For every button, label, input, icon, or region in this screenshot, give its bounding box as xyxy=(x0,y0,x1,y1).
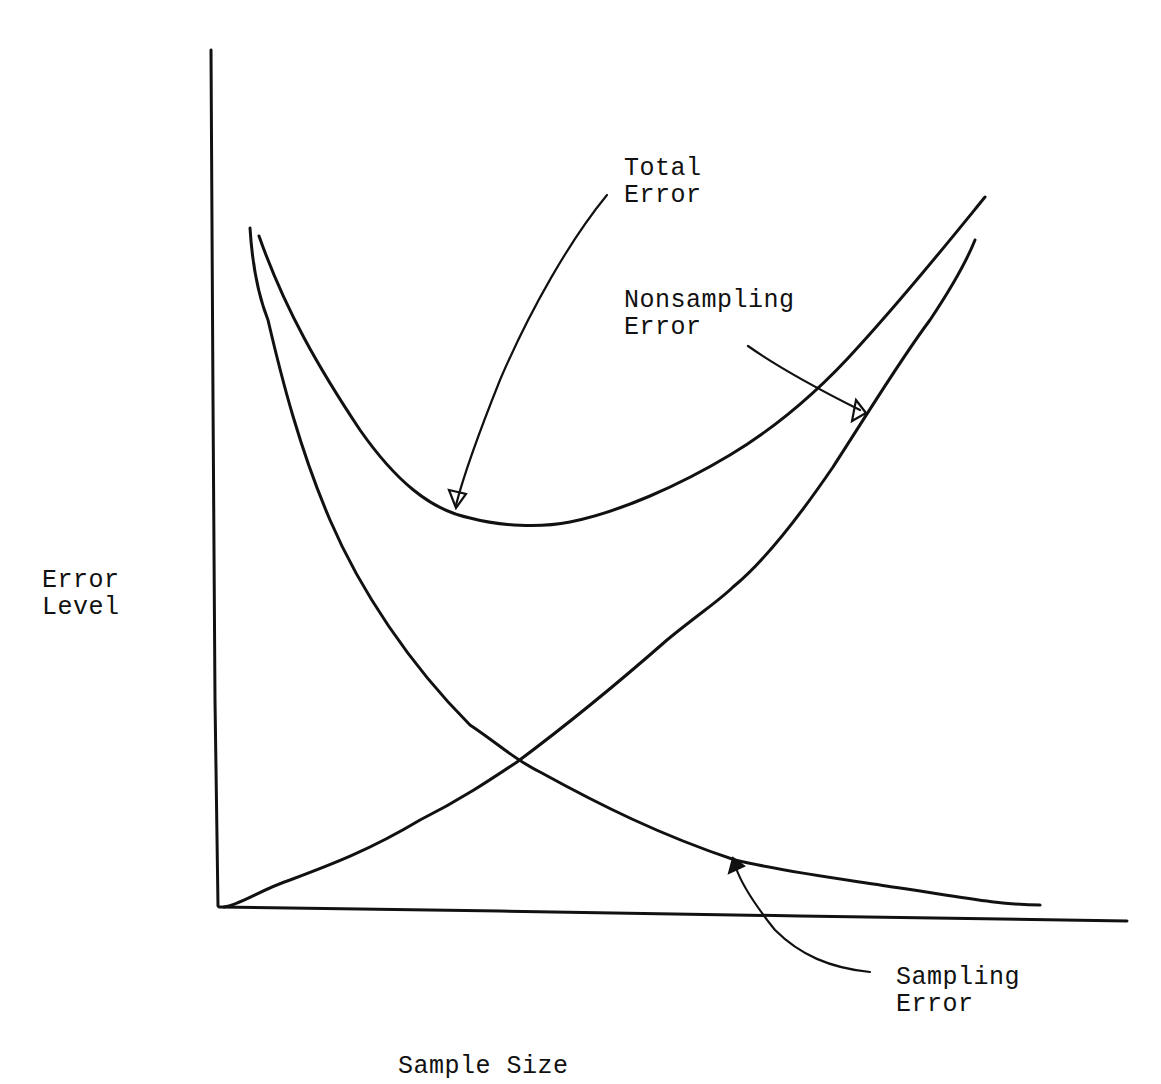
nonsampling-error-curve xyxy=(224,240,975,907)
x-axis-label: Sample Size xyxy=(398,1053,569,1080)
x-axis xyxy=(219,907,1127,921)
nonsampling-error-label: Nonsampling Error xyxy=(624,287,795,341)
chart-canvas xyxy=(0,0,1161,1084)
total-error-pointer xyxy=(449,195,607,508)
total-error-label: Total Error xyxy=(624,155,702,209)
y-axis xyxy=(211,50,218,906)
total-error-curve xyxy=(259,197,985,525)
sampling-error-label: Sampling Error xyxy=(896,964,1020,1018)
y-axis-label: Error Level xyxy=(42,567,120,621)
